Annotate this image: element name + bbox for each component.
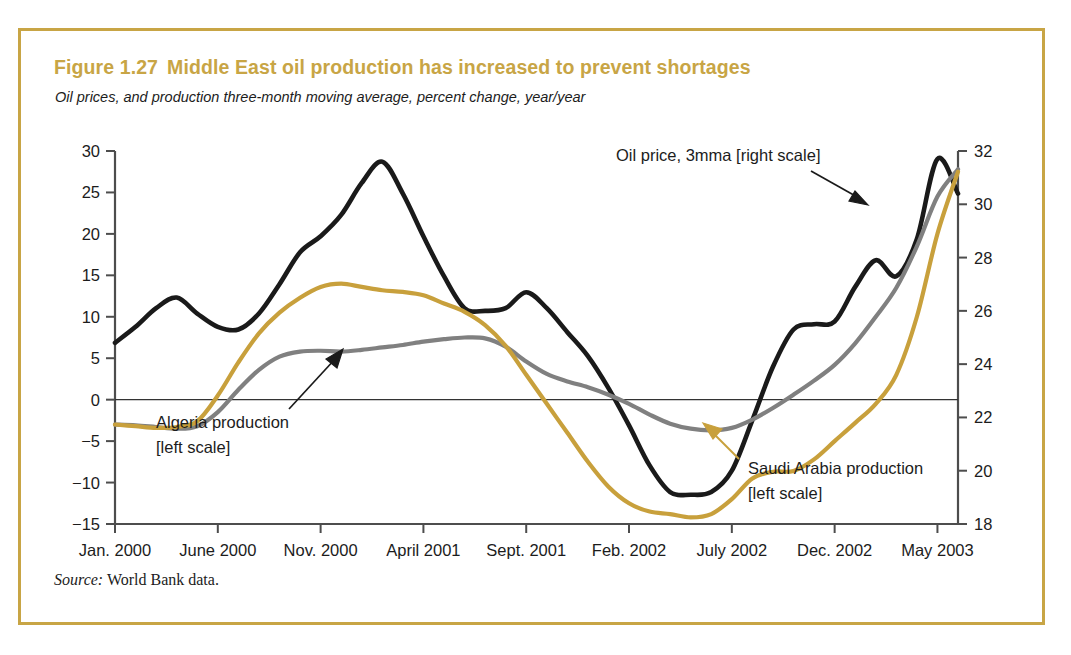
x-tick-label: Jan. 2000: [79, 541, 151, 559]
right-tick-label: 32: [974, 142, 992, 160]
left-tick-label: 5: [91, 349, 100, 367]
x-tick-label: Feb. 2002: [592, 541, 666, 559]
source-text: World Bank data.: [107, 571, 219, 588]
left-tick-label: 0: [91, 391, 100, 409]
left-tick-label: −10: [72, 474, 100, 492]
chart-plot-area: 302520151050−5−10−15 3230282624222018 Ja…: [21, 31, 1048, 628]
left-tick-label: 10: [82, 308, 100, 326]
annotation-arrow-oil-price: [811, 171, 859, 198]
left-tick-label: 15: [82, 266, 100, 284]
x-tick-label: Dec. 2002: [797, 541, 872, 559]
right-tick-label: 22: [974, 408, 992, 426]
annotation-oil-price: Oil price, 3mma [right scale]: [616, 146, 820, 164]
right-tick-label: 24: [974, 355, 992, 373]
source-label: Source:: [54, 571, 103, 588]
x-tick-label: April 2001: [386, 541, 460, 559]
right-tick-label: 30: [974, 195, 992, 213]
right-tick-label: 28: [974, 249, 992, 267]
right-axis-tick-labels: 3230282624222018: [974, 142, 992, 533]
annotation-algeria: Algeria production: [156, 413, 289, 431]
x-tick-label: Sept. 2001: [486, 541, 566, 559]
x-axis-tick-labels: Jan. 2000June 2000Nov. 2000April 2001Sep…: [79, 541, 974, 559]
annotation-arrow-algeria: [289, 358, 336, 409]
left-tick-label: 25: [82, 183, 100, 201]
annotation-saudi: Saudi Arabia production: [748, 459, 923, 477]
x-tick-label: July 2002: [697, 541, 768, 559]
right-tick-label: 20: [974, 462, 992, 480]
left-tick-label: −15: [72, 515, 100, 533]
figure-source: Source: World Bank data.: [54, 571, 219, 589]
left-tick-label: 30: [82, 142, 100, 160]
x-tick-label: June 2000: [179, 541, 256, 559]
x-tick-label: May 2003: [901, 541, 973, 559]
left-tick-label: −5: [81, 432, 100, 450]
figure-frame: Figure 1.27Middle East oil production ha…: [18, 28, 1045, 625]
left-tick-label: 20: [82, 225, 100, 243]
right-tick-label: 26: [974, 302, 992, 320]
x-tick-label: Nov. 2000: [284, 541, 358, 559]
annotation-saudi-scale: [left scale]: [748, 484, 822, 502]
annotation-algeria-scale: [left scale]: [156, 438, 230, 456]
line-chart: 302520151050−5−10−15 3230282624222018 Ja…: [21, 31, 1048, 628]
right-tick-label: 18: [974, 515, 992, 533]
left-axis-tick-labels: 302520151050−5−10−15: [72, 142, 100, 533]
